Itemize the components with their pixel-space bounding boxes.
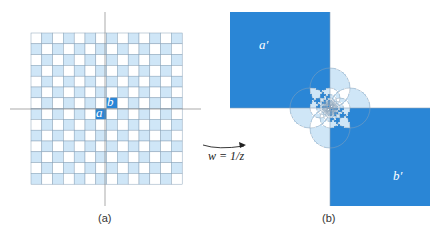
mapped-cell-pixel: [334, 84, 336, 86]
grid-cell: [161, 141, 172, 152]
mapped-cell-pixel: [316, 90, 318, 92]
mapped-cell-pixel: [354, 90, 356, 92]
mapped-cell-pixel: [314, 96, 316, 98]
mapped-cell-pixel: [320, 130, 322, 132]
grid-cell: [107, 163, 118, 174]
mapped-cell-pixel: [364, 96, 366, 98]
mapped-cell-pixel: [356, 104, 358, 106]
grid-cell: [63, 130, 74, 141]
mapped-cell-pixel: [348, 100, 350, 102]
mapped-cell-pixel: [300, 110, 302, 112]
mapped-cell-pixel: [356, 90, 358, 92]
mapped-cell-pixel: [302, 112, 304, 114]
mapped-cell-pixel: [338, 86, 340, 88]
mapped-cell-pixel: [340, 84, 342, 86]
mapped-cell-pixel: [352, 100, 354, 102]
mapped-cell-pixel: [316, 114, 318, 116]
mapped-cell-pixel: [324, 132, 326, 134]
mapped-cell-pixel: [302, 122, 304, 124]
mapped-cell-pixel: [346, 122, 348, 124]
grid-cell: [128, 109, 139, 120]
mapped-cell-pixel: [354, 100, 356, 102]
mapped-cell-pixel: [342, 76, 344, 78]
mapped-cell-pixel: [356, 102, 358, 104]
mapped-cell-pixel: [322, 100, 324, 102]
mapped-cell-pixel: [300, 112, 302, 114]
mapped-cell-pixel: [306, 124, 308, 126]
grid-cell: [161, 98, 172, 109]
mapped-cell-pixel: [334, 80, 336, 82]
grid-cell: [31, 76, 42, 87]
mapped-cell-pixel: [338, 88, 340, 90]
grid-cell: [128, 119, 139, 130]
grid-cell: [31, 55, 42, 66]
grid-cell: [139, 130, 150, 141]
mapped-cell-pixel: [332, 84, 334, 86]
mapped-cell-pixel: [344, 120, 346, 122]
grid-cell: [85, 130, 96, 141]
mapped-cell-pixel: [296, 110, 298, 112]
mapped-cell-pixel: [344, 84, 346, 86]
grid-cell: [107, 152, 118, 163]
grid-cell: [161, 163, 172, 174]
mapped-cell-pixel: [298, 114, 300, 116]
mapped-cell-pixel: [316, 140, 318, 142]
mapping-label: w = 1/z: [208, 149, 244, 163]
grid-cell: [117, 141, 128, 152]
grid-cell: [171, 152, 182, 163]
mapped-cell-pixel: [318, 96, 320, 98]
mapped-cell-pixel: [304, 118, 306, 120]
grid-cell: [128, 33, 139, 44]
mapped-cell-pixel: [336, 96, 338, 98]
grid-cell: [171, 98, 182, 109]
mapped-cell-pixel: [344, 80, 346, 82]
mapped-cell-pixel: [322, 132, 324, 134]
grid-cell: [42, 76, 53, 87]
grid-cell: [150, 65, 161, 76]
mapped-cell-pixel: [300, 120, 302, 122]
mapped-cell-pixel: [338, 84, 340, 86]
mapped-cell-pixel: [306, 120, 308, 122]
grid-cell: [171, 163, 182, 174]
mapped-cell-pixel: [292, 112, 294, 114]
grid-cell: [42, 163, 53, 174]
grid-cell: [150, 152, 161, 163]
grid-cell: [107, 130, 118, 141]
mapped-cell-pixel: [324, 138, 326, 140]
grid-cell: [53, 173, 64, 184]
mapped-cell-pixel: [336, 84, 338, 86]
mapped-cell-pixel: [322, 138, 324, 140]
grid-cell: [42, 44, 53, 55]
mapped-cell-pixel: [304, 112, 306, 114]
mapped-cell-pixel: [298, 108, 300, 110]
mapped-cell-pixel: [358, 96, 360, 98]
grid-cell: [107, 76, 118, 87]
grid-cell: [128, 141, 139, 152]
mapped-cell-pixel: [326, 134, 328, 136]
grid-cell: [107, 119, 118, 130]
mapped-cell-pixel: [344, 82, 346, 84]
grid-cell: [117, 98, 128, 109]
mapped-cell-pixel: [296, 108, 298, 110]
mapped-cell-pixel: [366, 100, 368, 102]
mapped-cell-pixel: [332, 124, 334, 126]
mapped-cell-pixel: [340, 72, 342, 74]
grid-cell: [42, 141, 53, 152]
grid-cell: [161, 55, 172, 66]
mapped-cell-pixel: [356, 92, 358, 94]
caption-a: (a): [98, 212, 111, 224]
mapped-cell-pixel: [358, 94, 360, 96]
mapped-cell-pixel: [294, 114, 296, 116]
mapped-cell-pixel: [326, 92, 328, 94]
mapped-cell-pixel: [356, 100, 358, 102]
grid-cell: [74, 141, 85, 152]
grid-cell: [161, 152, 172, 163]
mapped-cell-pixel: [308, 114, 310, 116]
mapped-cell-pixel: [316, 136, 318, 138]
mapped-cell-pixel: [362, 98, 364, 100]
mapped-cell-pixel: [362, 96, 364, 98]
grid-cell: [117, 55, 128, 66]
grid-cell: [85, 98, 96, 109]
grid-cell: [74, 76, 85, 87]
mapped-cell-pixel: [300, 118, 302, 120]
